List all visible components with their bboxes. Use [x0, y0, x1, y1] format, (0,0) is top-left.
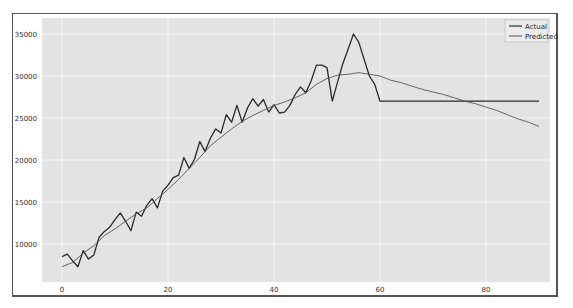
y-tick-label: 25000 [15, 115, 37, 123]
x-tick-label: 20 [164, 286, 173, 294]
legend-label-predicted: Predicted [525, 33, 558, 41]
x-tick-label: 0 [60, 286, 64, 294]
y-tick-label: 15000 [15, 199, 37, 207]
x-tick-label: 40 [270, 286, 279, 294]
line-chart: 100001500020000250003000035000 020406080… [0, 0, 573, 308]
legend-label-actual: Actual [525, 23, 547, 31]
x-axis-ticks: 020406080 [60, 286, 491, 294]
y-tick-label: 35000 [15, 31, 37, 39]
plot-area [42, 18, 550, 282]
y-tick-label: 10000 [15, 241, 37, 249]
x-tick-label: 80 [482, 286, 491, 294]
y-tick-label: 20000 [15, 157, 37, 165]
y-tick-label: 30000 [15, 73, 37, 81]
y-axis-ticks: 100001500020000250003000035000 [15, 31, 37, 249]
x-tick-label: 60 [376, 286, 385, 294]
